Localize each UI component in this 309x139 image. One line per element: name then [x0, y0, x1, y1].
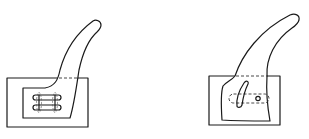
- right-figure: [209, 14, 299, 125]
- left-arm: [23, 20, 101, 118]
- technical-drawing: [0, 0, 309, 139]
- left-figure: [7, 20, 101, 127]
- right-arm: [221, 14, 299, 121]
